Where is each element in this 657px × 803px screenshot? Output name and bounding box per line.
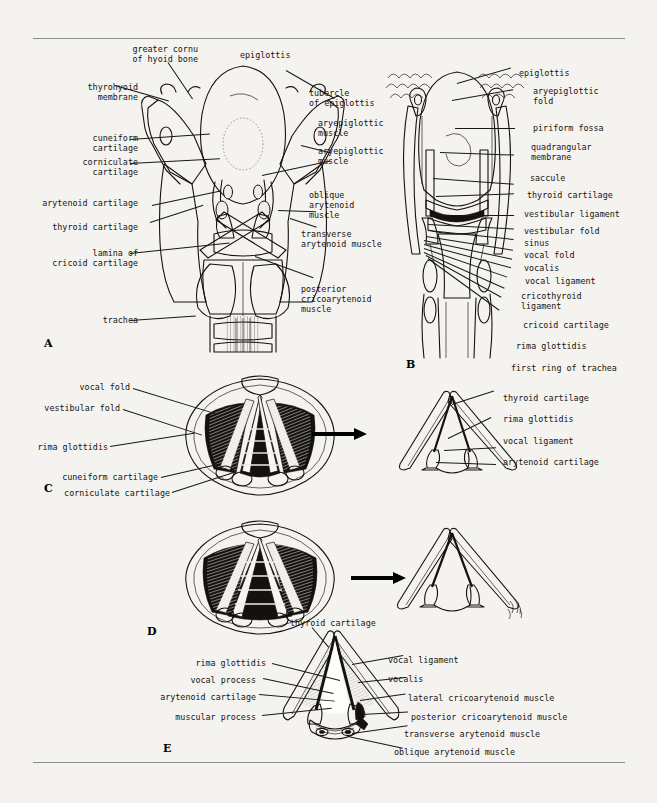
panel-letter-a: A bbox=[44, 337, 53, 350]
panel-b-label-thyroid-cartilage: thyroid cartilage bbox=[527, 190, 613, 200]
panel-e-label-lateral-cricoarytenoid-muscle: lateral cricoarytenoid muscle bbox=[408, 693, 554, 703]
panel-e-label-rima-glottidis: rima glottidis bbox=[176, 658, 266, 668]
panel-e-label-muscular-process: muscular process bbox=[156, 712, 256, 722]
panel-b-label-rima-glottidis: rima glottidis bbox=[516, 341, 587, 351]
panel-b-label-vocalis: vocalis bbox=[524, 263, 559, 273]
panel-letter-d: D bbox=[147, 625, 157, 638]
panel-e-label-posterior-cricoarytenoid-muscle: posterior cricoarytenoid muscle bbox=[411, 712, 567, 722]
leader-line bbox=[432, 215, 514, 216]
panel-b-label-first-ring-of-trachea: first ring of trachea bbox=[511, 363, 617, 373]
panel-b-label-vestibular-ligament: vestibular ligament bbox=[524, 209, 620, 219]
panel-a-label-corniculate-cartilage: corniculate cartilage bbox=[18, 157, 138, 177]
panel-d-schematic bbox=[392, 525, 542, 625]
panel-e-label-arytenoid-cartilage: arytenoid cartilage bbox=[146, 692, 256, 702]
panel-c-schematic-label-rima-glottidis: rima glottidis bbox=[503, 414, 574, 424]
panel-c-schematic-label-arytenoid-cartilage: arytenoid cartilage bbox=[503, 457, 599, 467]
panel-letter-e: E bbox=[163, 742, 171, 755]
panel-b-label-cricoid-cartilage: cricoid cartilage bbox=[523, 320, 609, 330]
panel-e-label-vocal-process: vocal process bbox=[166, 675, 256, 685]
panel-b-label-saccule: saccule bbox=[530, 173, 565, 183]
panel-e-label-vocalis: vocalis bbox=[388, 674, 423, 684]
panel-a-label-cuneiform-cartilage: cuneiform cartilage bbox=[18, 133, 138, 153]
panel-a-label-aryepiglottic-muscle-1: aryepiglottic muscle bbox=[318, 118, 384, 138]
panel-b-label-aryepiglottic-fold: aryepiglottic fold bbox=[533, 86, 599, 106]
panel-e-label-vocal-ligament: vocal ligament bbox=[388, 655, 459, 665]
panel-e-label-oblique-arytenoid-muscle: oblique arytenoid muscle bbox=[394, 747, 515, 757]
panel-b-label-vestibular-fold: vestibular fold bbox=[524, 226, 600, 236]
panel-b-label-quadrangular-membrane: quadrangular membrane bbox=[531, 142, 592, 162]
panel-a-label-thyrohyoid-membrane: thyrohyoid membrane bbox=[18, 82, 138, 102]
figure-plate: greater cornu of hyoid bone thyrohyoid m… bbox=[0, 0, 657, 803]
panel-a-label-tubercle-of-epiglottis: tubercle of epiglottis bbox=[309, 88, 375, 108]
panel-b-label-vocal-fold: vocal fold bbox=[524, 250, 574, 260]
panel-b-label-sinus: sinus bbox=[524, 238, 549, 248]
panel-a-label-greater-cornu: greater cornu of hyoid bone bbox=[58, 44, 198, 64]
panel-a-label-trachea: trachea bbox=[38, 315, 138, 325]
panel-c-label-vocal-fold: vocal fold bbox=[40, 382, 130, 392]
panel-a-label-oblique-arytenoid-muscle: oblique arytenoid muscle bbox=[309, 190, 354, 221]
panel-letter-b: B bbox=[406, 358, 415, 371]
panel-e-label-thyroid-cartilage: thyroid cartilage bbox=[290, 618, 376, 628]
panel-c-schematic-label-thyroid-cartilage: thyroid cartilage bbox=[503, 393, 589, 403]
panel-a-label-thyroid-cartilage: thyroid cartilage bbox=[8, 222, 138, 232]
panel-b-label-cricothyroid-ligament: cricothyroid ligament bbox=[521, 291, 582, 311]
top-divider-rule bbox=[33, 38, 625, 39]
panel-a-label-epiglottis: epiglottis bbox=[240, 50, 290, 60]
arrow-c-to-schematic bbox=[312, 428, 368, 440]
panel-c-label-cuneiform-cartilage: cuneiform cartilage bbox=[16, 472, 158, 482]
panel-b-label-piriform-fossa: piriform fossa bbox=[533, 123, 604, 133]
bottom-divider-rule bbox=[33, 762, 625, 763]
panel-letter-c: C bbox=[44, 482, 53, 495]
panel-b-illustration bbox=[382, 58, 532, 358]
panel-b-label-epiglottis: epiglottis bbox=[519, 68, 569, 78]
panel-e-label-transverse-arytenoid-muscle: transverse arytenoid muscle bbox=[404, 729, 540, 739]
panel-a-label-aryepiglottic-muscle-2: aryepiglottic muscle bbox=[318, 146, 384, 166]
panel-a-label-posterior-cricoarytenoid-muscle: posterior cricoarytenoid muscle bbox=[301, 284, 372, 315]
panel-b-label-vocal-ligament: vocal ligament bbox=[525, 276, 596, 286]
panel-c-schematic-label-vocal-ligament: vocal ligament bbox=[503, 436, 574, 446]
panel-a-label-arytenoid-cartilage: arytenoid cartilage bbox=[8, 198, 138, 208]
panel-c-label-vestibular-fold: vestibular fold bbox=[20, 403, 120, 413]
panel-a-label-cricoid-lamina: lamina of cricoid cartilage bbox=[18, 248, 138, 268]
panel-c-label-rima-glottidis: rima glottidis bbox=[22, 442, 108, 452]
leader-line bbox=[455, 128, 515, 129]
panel-a-label-transverse-arytenoid-muscle: transverse arytenoid muscle bbox=[301, 229, 382, 249]
